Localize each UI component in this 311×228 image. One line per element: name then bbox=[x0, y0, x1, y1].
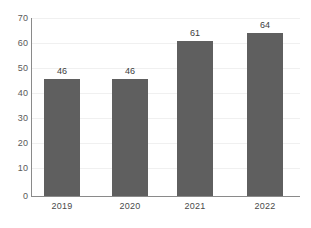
bar-2022[interactable] bbox=[247, 33, 283, 196]
value-label-2019: 46 bbox=[44, 67, 80, 76]
value-label-2021: 61 bbox=[177, 29, 213, 38]
y-tick-label-60: 60 bbox=[2, 39, 28, 48]
y-tick-label-10: 10 bbox=[2, 164, 28, 173]
y-axis-tick-labels: 70 60 50 40 30 20 10 0 bbox=[0, 0, 28, 228]
y-tick-label-40: 40 bbox=[2, 89, 28, 98]
value-label-2022: 64 bbox=[247, 21, 283, 30]
y-axis-line bbox=[31, 18, 32, 196]
bar-2021[interactable] bbox=[177, 41, 213, 196]
bar-chart: 70 60 50 40 30 20 10 0 46 46 61 64 2019 … bbox=[0, 0, 311, 228]
x-axis-line bbox=[31, 196, 300, 197]
gridline-70 bbox=[32, 18, 300, 19]
y-tick-label-30: 30 bbox=[2, 114, 28, 123]
x-tick-label-2022: 2022 bbox=[241, 201, 289, 212]
x-tick-label-2019: 2019 bbox=[38, 201, 86, 212]
y-tick-label-20: 20 bbox=[2, 139, 28, 148]
y-tick-label-50: 50 bbox=[2, 64, 28, 73]
x-tick-label-2021: 2021 bbox=[171, 201, 219, 212]
value-label-2020: 46 bbox=[112, 67, 148, 76]
y-tick-label-0: 0 bbox=[2, 192, 28, 201]
bar-2020[interactable] bbox=[112, 79, 148, 196]
bar-2019[interactable] bbox=[44, 79, 80, 196]
y-tick-label-70: 70 bbox=[2, 14, 28, 23]
x-tick-label-2020: 2020 bbox=[106, 201, 154, 212]
